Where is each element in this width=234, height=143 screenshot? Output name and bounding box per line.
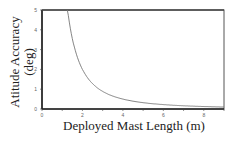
accuracy-curve: [67, 10, 224, 107]
y-axis-label: Atitude Accuracy(deg): [8, 2, 36, 122]
x-axis-label: Deployed Mast Length (m): [42, 118, 226, 134]
